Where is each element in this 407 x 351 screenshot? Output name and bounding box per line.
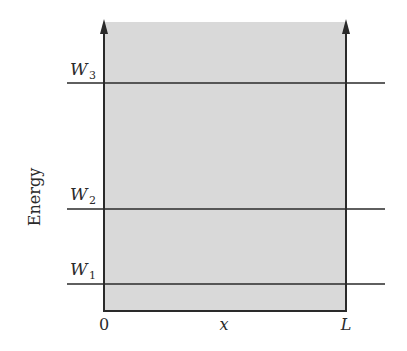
x-tick-l: L <box>340 315 352 334</box>
energy-level-label-w3: W 3 <box>70 59 96 82</box>
svg-text:W: W <box>70 259 89 279</box>
svg-text:W: W <box>70 59 89 79</box>
energy-level-diagram: W 3 W 2 W 1 Energy 0 x L <box>0 0 407 351</box>
energy-level-label-w2: W 2 <box>70 184 96 207</box>
svg-text:W: W <box>70 184 89 204</box>
well-region <box>104 22 346 311</box>
energy-level-label-w1: W 1 <box>70 259 96 282</box>
x-axis-label: x <box>219 315 228 334</box>
x-tick-zero: 0 <box>99 315 109 334</box>
svg-text:3: 3 <box>89 69 96 82</box>
svg-text:2: 2 <box>89 194 96 207</box>
svg-text:1: 1 <box>89 269 96 282</box>
y-axis-label: Energy <box>25 168 44 226</box>
